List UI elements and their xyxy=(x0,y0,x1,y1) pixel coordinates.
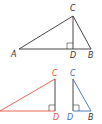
label-c: C xyxy=(70,69,76,78)
label-b: B xyxy=(88,113,94,122)
label-d: D xyxy=(67,113,73,122)
label-b: B xyxy=(88,51,94,60)
label-a: A xyxy=(10,50,16,59)
label-c: C xyxy=(70,4,76,13)
similar-triangles-diagram: C A D B C D C D B xyxy=(0,0,102,124)
right-angle-mark xyxy=(49,105,55,111)
blue-triangle: C D B xyxy=(67,69,94,122)
triangle-abc xyxy=(19,16,91,49)
label-d: D xyxy=(53,113,59,122)
main-triangle: C A D B xyxy=(10,4,94,60)
red-triangle: C D xyxy=(0,69,59,122)
label-d: D xyxy=(70,51,76,60)
angle-arc-c xyxy=(69,18,74,20)
right-angle-mark xyxy=(67,43,73,49)
right-angle-mark xyxy=(73,105,79,111)
label-c: C xyxy=(52,69,58,78)
